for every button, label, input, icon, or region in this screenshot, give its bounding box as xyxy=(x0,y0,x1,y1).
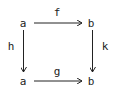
node-top-right: b xyxy=(88,18,95,29)
node-bottom-left: a xyxy=(20,76,27,87)
node-top-left: a xyxy=(20,18,27,29)
label-k: k xyxy=(102,41,109,52)
label-g: g xyxy=(54,66,61,77)
node-bottom-right: b xyxy=(88,76,95,87)
commutative-diagram: a b a b f h k g xyxy=(0,0,113,90)
label-h: h xyxy=(8,41,15,52)
label-f: f xyxy=(54,7,61,18)
